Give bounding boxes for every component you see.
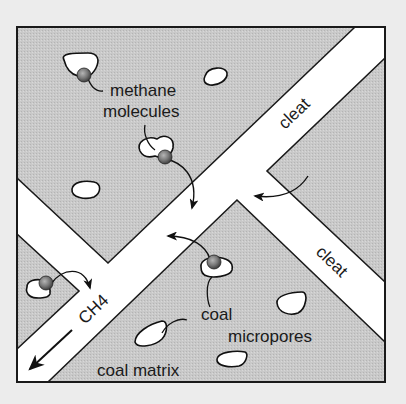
label-coal-matrix: coal matrix (97, 361, 180, 380)
methane-molecule-icon (77, 68, 91, 82)
label-micropores: micropores (228, 327, 312, 346)
micropore (72, 181, 100, 198)
methane-molecule-icon (207, 255, 221, 269)
label-coal: coal (201, 305, 232, 324)
micropore (217, 351, 247, 366)
methane-molecule-icon (39, 276, 53, 290)
label-molecules: molecules (103, 102, 180, 121)
coal-cleat-diagram: methane molecules cleat cleat CH4 coal m… (0, 0, 406, 404)
methane-molecule-icon (158, 150, 172, 164)
label-methane: methane (110, 81, 176, 100)
